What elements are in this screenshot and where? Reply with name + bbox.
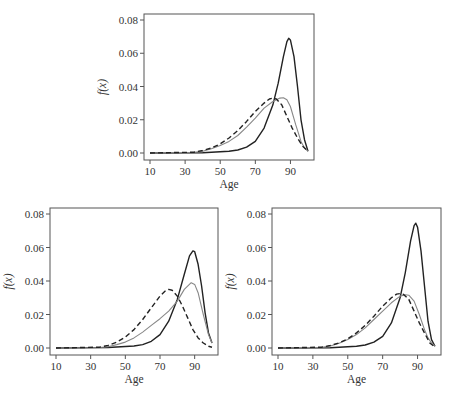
x-tick-label: 10 [51,360,63,372]
x-tick-label: 10 [273,360,285,372]
y-tick-label: 0.04 [25,275,45,287]
y-tick-label: 0.00 [25,342,45,354]
x-tick-label: 30 [180,165,192,177]
series-black-solid [150,38,308,153]
plot-frame [50,208,218,355]
x-tick-label: 90 [285,165,297,177]
y-tick-label: 0.00 [247,342,267,354]
y-axis-label: f(x) [224,273,237,289]
y-tick-label: 0.04 [247,275,267,287]
y-tick-label: 0.02 [25,309,44,321]
series-black-dashed [56,289,212,348]
y-tick-label: 0.02 [119,114,138,126]
x-tick-label: 30 [85,360,97,372]
figure-canvas: 0.000.020.040.060.081030507090Agef(x)0.0… [0,0,456,395]
x-tick-label: 70 [377,360,389,372]
x-tick-label: 90 [412,360,424,372]
series-black-solid [56,251,212,348]
y-tick-label: 0.08 [247,208,267,220]
x-tick-label: 50 [215,165,227,177]
y-axis-label: f(x) [2,273,15,289]
x-axis-label: Age [124,373,143,386]
series-gray-solid [278,295,435,348]
y-tick-label: 0.08 [25,208,45,220]
x-tick-label: 30 [307,360,319,372]
chart-top: 0.000.020.040.060.081030507090Agef(x) [96,14,314,191]
y-tick-label: 0.08 [119,14,139,26]
y-tick-label: 0.00 [119,147,139,159]
y-tick-label: 0.06 [119,47,139,59]
series-black-dashed [278,294,435,348]
x-tick-label: 90 [189,360,201,372]
chart-bottom-right: 0.000.020.040.060.081030507090Agef(x) [224,208,441,386]
x-tick-label: 70 [155,360,167,372]
series-gray-solid [150,98,308,153]
chart-bottom-left: 0.000.020.040.060.081030507090Agef(x) [2,208,218,386]
x-tick-label: 50 [342,360,354,372]
x-tick-label: 10 [145,165,157,177]
y-tick-label: 0.06 [247,242,267,254]
x-tick-label: 70 [250,165,262,177]
series-gray-solid [56,283,212,348]
y-tick-label: 0.02 [247,309,266,321]
x-axis-label: Age [347,373,366,386]
y-tick-label: 0.04 [119,81,139,93]
x-axis-label: Age [219,178,238,191]
x-tick-label: 50 [120,360,132,372]
series-black-dashed [150,98,308,153]
series-black-solid [278,223,435,348]
y-axis-label: f(x) [96,79,109,95]
y-tick-label: 0.06 [25,242,45,254]
